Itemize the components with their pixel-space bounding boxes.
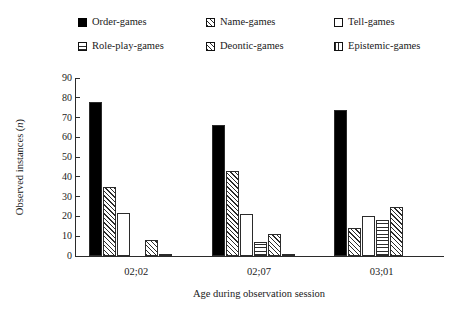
legend-item-label: Order-games — [92, 17, 147, 28]
y-axis-tick-label: 80 — [62, 93, 76, 103]
y-axis-tick-label: 90 — [62, 73, 76, 83]
bar-tell-games-02-02[interactable] — [117, 213, 130, 257]
y-axis-title-text-end: ) — [14, 119, 25, 123]
y-axis-tick-label: 10 — [62, 231, 76, 241]
y-axis-tick-label: 20 — [62, 211, 76, 221]
legend-item-label: Role-play-games — [92, 41, 164, 52]
x-axis-tick-label: 03;01 — [370, 266, 394, 277]
legend-swatch-name-games — [206, 18, 215, 27]
legend-swatch-epistemic-games — [334, 42, 343, 51]
chart-legend: Order-gamesName-gamesTell-gamesRole-play… — [78, 10, 448, 58]
bar-role-play-games-02-07[interactable] — [254, 242, 267, 256]
y-axis-tick-label: 60 — [62, 132, 76, 142]
bar-name-games-02-07[interactable] — [226, 171, 239, 256]
bar-deontic-games-02-02[interactable] — [145, 240, 158, 256]
x-axis-tick-label: 02;02 — [124, 266, 148, 277]
legend-item-label: Tell-games — [348, 17, 395, 28]
x-axis-tick: 03;01 — [320, 257, 443, 279]
legend-swatch-deontic-games — [206, 42, 215, 51]
legend-item-order-games[interactable]: Order-games — [78, 17, 206, 28]
bar-epistemic-games-02-02[interactable] — [159, 254, 172, 256]
y-axis-tick-label: 70 — [62, 113, 76, 123]
bar-group-02-07 — [199, 78, 322, 256]
legend-item-epistemic-games[interactable]: Epistemic-games — [334, 41, 452, 52]
x-axis-tick: 02;02 — [75, 257, 198, 279]
y-axis-title-text-start: Observed instances ( — [14, 128, 25, 215]
legend-swatch-role-play-games — [78, 42, 87, 51]
bar-chart-figure: Order-gamesName-gamesTell-gamesRole-play… — [0, 0, 457, 319]
legend-item-role-play-games[interactable]: Role-play-games — [78, 41, 206, 52]
y-axis-title-text-italic: n — [14, 122, 25, 127]
x-axis-title: Age during observation session — [75, 288, 443, 299]
bar-deontic-games-03-01[interactable] — [390, 207, 403, 256]
y-axis-title: Observed instances (n) — [14, 78, 28, 256]
legend-item-name-games[interactable]: Name-games — [206, 17, 334, 28]
bar-role-play-games-03-01[interactable] — [376, 220, 389, 256]
bar-order-games-03-01[interactable] — [334, 110, 347, 256]
legend-item-tell-games[interactable]: Tell-games — [334, 17, 452, 28]
bar-deontic-games-02-07[interactable] — [268, 234, 281, 256]
y-axis-tick-label: 40 — [62, 172, 76, 182]
plot-area: 0102030405060708090 — [75, 78, 444, 257]
legend-item-label: Deontic-games — [220, 41, 284, 52]
x-axis-tick-label: 02;07 — [247, 266, 271, 277]
y-axis-tick-label: 30 — [62, 192, 76, 202]
legend-swatch-order-games — [78, 18, 87, 27]
bar-name-games-02-02[interactable] — [103, 187, 116, 256]
x-axis-tick-labels: 02;0202;0703;01 — [75, 257, 443, 279]
bar-name-games-03-01[interactable] — [348, 228, 361, 256]
legend-swatch-tell-games — [334, 18, 343, 27]
legend-item-label: Epistemic-games — [348, 41, 420, 52]
bar-tell-games-03-01[interactable] — [362, 216, 375, 256]
bar-epistemic-games-02-07[interactable] — [282, 254, 295, 256]
bar-group-02-02 — [76, 78, 199, 256]
bar-order-games-02-02[interactable] — [89, 102, 102, 256]
bar-groups — [76, 78, 444, 256]
y-axis-tick-label: 50 — [62, 152, 76, 162]
bar-order-games-02-07[interactable] — [212, 125, 225, 256]
legend-item-deontic-games[interactable]: Deontic-games — [206, 41, 334, 52]
bar-group-03-01 — [321, 78, 444, 256]
bar-tell-games-02-07[interactable] — [240, 214, 253, 256]
x-axis-tick: 02;07 — [198, 257, 321, 279]
legend-item-label: Name-games — [220, 17, 275, 28]
